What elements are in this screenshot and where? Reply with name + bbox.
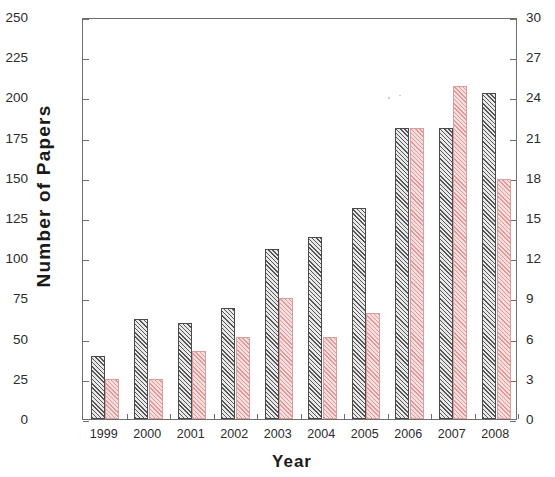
bar-series-2 xyxy=(149,379,163,419)
y-axis-left-tick xyxy=(83,421,89,422)
bar-series-1 xyxy=(265,249,279,419)
y-axis-left-tick xyxy=(83,260,89,261)
x-axis-tick xyxy=(257,414,258,419)
bar-series-2 xyxy=(236,337,250,419)
y-axis-right-tick-label: 6 xyxy=(526,333,555,347)
y-axis-right-tick-label: 15 xyxy=(526,212,555,226)
bar-series-2 xyxy=(279,298,293,419)
x-axis-tick-label: 2008 xyxy=(472,427,518,441)
bar-series-1 xyxy=(178,323,192,419)
y-axis-left-tick-label: 25 xyxy=(0,373,28,387)
bar-series-1 xyxy=(221,308,235,419)
y-axis-right-tick xyxy=(510,180,516,181)
chart-figure: Number of Papers Year 250225200175150125… xyxy=(0,0,555,477)
y-axis-left-tick-label: 0 xyxy=(0,413,28,427)
y-axis-right-tick-label: 30 xyxy=(526,11,555,25)
y-axis-left-tick-label: 50 xyxy=(0,333,28,347)
x-axis-tick-label: 2003 xyxy=(255,427,301,441)
bar-series-1 xyxy=(91,356,105,419)
y-axis-right-tick-label: 24 xyxy=(526,91,555,105)
y-axis-left-tick xyxy=(83,220,89,221)
y-axis-left-tick xyxy=(83,99,89,100)
y-axis-left-tick xyxy=(83,300,89,301)
y-axis-right-tick-label: 9 xyxy=(526,292,555,306)
y-axis-right-tick xyxy=(510,381,516,382)
plot-area xyxy=(82,18,517,420)
y-axis-right-tick xyxy=(510,300,516,301)
y-axis-left-tick xyxy=(83,19,89,20)
y-axis-right-tick-label: 27 xyxy=(526,51,555,65)
y-axis-right-tick-label: 3 xyxy=(526,373,555,387)
bar-series-1 xyxy=(352,208,366,419)
y-axis-left-tick xyxy=(83,180,89,181)
bar-series-2 xyxy=(323,337,337,419)
y-axis-title: Number of Papers xyxy=(33,66,55,326)
y-axis-left-tick xyxy=(83,381,89,382)
y-axis-left-tick-label: 150 xyxy=(0,172,28,186)
y-axis-left-tick-label: 75 xyxy=(0,292,28,306)
x-axis-tick xyxy=(301,414,302,419)
scan-speck xyxy=(399,95,401,96)
y-axis-left-tick-label: 175 xyxy=(0,132,28,146)
y-axis-right-tick xyxy=(510,59,516,60)
bar-series-2 xyxy=(366,313,380,419)
y-axis-right-tick xyxy=(510,220,516,221)
y-axis-right-tick-label: 12 xyxy=(526,252,555,266)
y-axis-right-tick-label: 0 xyxy=(526,413,555,427)
y-axis-left-tick xyxy=(83,341,89,342)
bar-series-2 xyxy=(105,379,119,419)
x-axis-tick xyxy=(127,414,128,419)
bar-series-2 xyxy=(453,86,467,419)
y-axis-right-tick xyxy=(510,341,516,342)
x-axis-tick xyxy=(388,414,389,419)
bar-series-2 xyxy=(192,351,206,419)
x-axis-tick-label: 2005 xyxy=(342,427,388,441)
x-axis-tick xyxy=(344,414,345,419)
x-axis-tick-label: 2006 xyxy=(385,427,431,441)
y-axis-left-tick-label: 250 xyxy=(0,11,28,25)
x-axis-tick-label: 2000 xyxy=(124,427,170,441)
x-axis-tick xyxy=(214,414,215,419)
y-axis-left-tick-label: 125 xyxy=(0,212,28,226)
y-axis-right-tick-label: 21 xyxy=(526,132,555,146)
y-axis-right-tick xyxy=(510,19,516,20)
x-axis-tick xyxy=(170,414,171,419)
x-axis-tick-label: 2001 xyxy=(168,427,214,441)
scan-speck xyxy=(388,97,390,99)
y-axis-left-tick xyxy=(83,140,89,141)
x-axis-tick-label: 2002 xyxy=(211,427,257,441)
y-axis-right-tick xyxy=(510,99,516,100)
x-axis-title: Year xyxy=(82,452,502,472)
y-axis-left-tick-label: 200 xyxy=(0,91,28,105)
y-axis-right-tick xyxy=(510,260,516,261)
y-axis-left-tick-label: 100 xyxy=(0,252,28,266)
y-axis-right-tick-label: 18 xyxy=(526,172,555,186)
x-axis-tick-label: 2007 xyxy=(429,427,475,441)
y-axis-left-tick xyxy=(83,59,89,60)
x-axis-tick-label: 2004 xyxy=(298,427,344,441)
x-axis-tick xyxy=(518,414,519,419)
x-axis-tick xyxy=(431,414,432,419)
bar-series-1 xyxy=(482,93,496,419)
bar-series-1 xyxy=(308,237,322,419)
y-axis-right-tick xyxy=(510,421,516,422)
bar-series-1 xyxy=(439,128,453,419)
bar-series-2 xyxy=(497,179,511,419)
y-axis-right-tick xyxy=(510,140,516,141)
bar-series-2 xyxy=(410,128,424,419)
x-axis-tick xyxy=(475,414,476,419)
x-axis-tick-label: 1999 xyxy=(81,427,127,441)
bar-series-1 xyxy=(395,128,409,419)
bar-series-1 xyxy=(134,319,148,419)
y-axis-left-tick-label: 225 xyxy=(0,51,28,65)
